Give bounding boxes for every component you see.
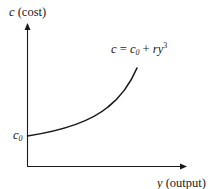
y-axis-desc: (cost)	[18, 5, 46, 19]
eq-exp: 3	[163, 41, 167, 50]
intercept-sub: 0	[19, 134, 23, 143]
curve-equation-label: c = c0 + ry3	[111, 42, 167, 57]
cost-curve-chart	[0, 0, 208, 189]
eq-sign: =	[117, 42, 130, 56]
intercept-label: c0	[13, 129, 23, 143]
x-axis-label: y (output)	[157, 177, 206, 189]
eq-plus: +	[139, 42, 152, 56]
y-axis-label: c (cost)	[9, 6, 46, 19]
x-axis-var: y	[157, 176, 163, 189]
cost-curve	[28, 68, 138, 136]
x-axis-desc: (output)	[166, 176, 206, 189]
y-axis-var: c	[9, 5, 15, 19]
